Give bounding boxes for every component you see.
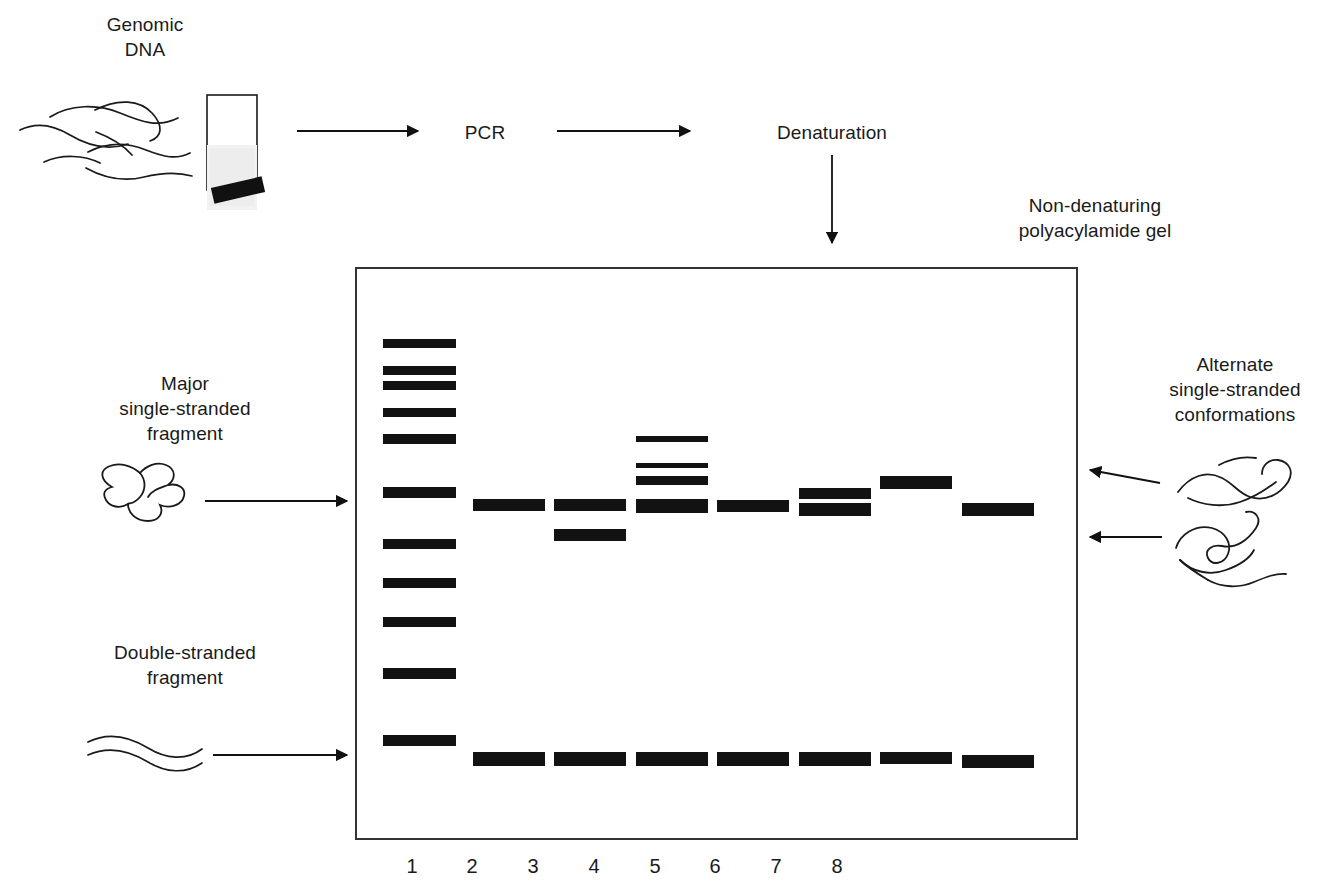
lane-number-6: 6 [700,856,730,876]
lane-number-5: 5 [640,856,670,876]
figure-canvas: Genomic DNA PCR Denaturation Non-denatur… [0,0,1325,888]
lane-number-7: 7 [761,856,791,876]
lane-number-2: 2 [457,856,487,876]
lane-number-3: 3 [518,856,548,876]
lane-number-8: 8 [822,856,852,876]
lane-number-4: 4 [579,856,609,876]
lane-number-row: 12345678 [0,0,1325,888]
lane-number-1: 1 [397,856,427,876]
